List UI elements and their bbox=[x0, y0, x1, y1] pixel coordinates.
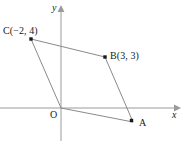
figure-canvas bbox=[0, 0, 186, 141]
vertex-dot-a bbox=[130, 119, 133, 122]
vertex-dot-b bbox=[103, 55, 106, 58]
origin-label: O bbox=[50, 110, 57, 120]
coordinate-plane-figure: C(−2, 4) B(3, 3) A O y x bbox=[0, 0, 186, 141]
y-axis-arrowhead bbox=[58, 5, 65, 12]
point-label-c: C(−2, 4) bbox=[3, 26, 38, 36]
y-axis-label: y bbox=[52, 3, 56, 13]
x-axis-label: x bbox=[172, 110, 176, 120]
point-label-b: B(3, 3) bbox=[110, 51, 139, 61]
point-label-a: A bbox=[139, 118, 146, 128]
vertex-dot-c bbox=[29, 37, 32, 40]
